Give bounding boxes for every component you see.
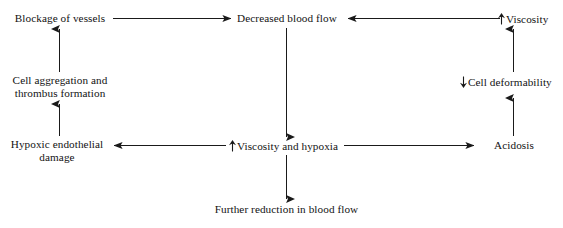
arrow-up-icon [497,13,506,25]
node-label-line2: damage [0,151,114,164]
node-decreased-blood-flow: Decreased blood flow [228,12,346,25]
arrow-down-icon [459,76,468,88]
node-label: Blockage of vessels [15,12,105,24]
node-blockage-of-vessels: Blockage of vessels [0,12,120,25]
node-label: Decreased blood flow [237,12,337,24]
node-label-line1: Hypoxic endothelial [11,138,104,150]
node-label: Acidosis [494,139,534,151]
flowchart-diagram: Blockage of vessels Decreased blood flow… [0,0,563,228]
node-cell-aggregation-and-thrombus-formation: Cell aggregation and thrombus formation [0,74,120,100]
node-label-line2: thrombus formation [0,87,120,100]
node-further-reduction-in-blood-flow: Further reduction in blood flow [196,203,377,216]
node-label-line1: Cell aggregation and [13,74,108,86]
node-viscosity-and-hypoxia: Viscosity and hypoxia [228,139,358,153]
arrow-up-icon [228,140,237,152]
node-label: Cell deformability [468,76,552,89]
node-label: Viscosity and hypoxia [237,140,338,153]
node-label: Further reduction in blood flow [215,203,359,215]
node-acidosis: Acidosis [484,139,544,152]
node-hypoxic-endothelial-damage: Hypoxic endothelial damage [0,138,114,164]
node-viscosity: Viscosity [497,12,563,26]
node-label: Viscosity [506,13,548,26]
node-cell-deformability: Cell deformability [459,75,563,89]
edge-layer [0,0,563,228]
